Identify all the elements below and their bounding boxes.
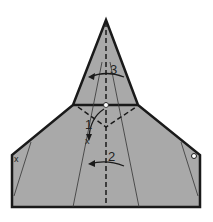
origami-diagram: 3 2 1 x x [0, 0, 213, 222]
center-dot [104, 103, 109, 108]
x-mark-center: x [85, 136, 90, 146]
x-mark-left: x [14, 154, 19, 164]
step-label-2: 2 [108, 149, 115, 164]
right-edge-circle [192, 154, 197, 159]
step-label-3: 3 [110, 62, 117, 77]
step-label-1: 1 [85, 117, 92, 132]
